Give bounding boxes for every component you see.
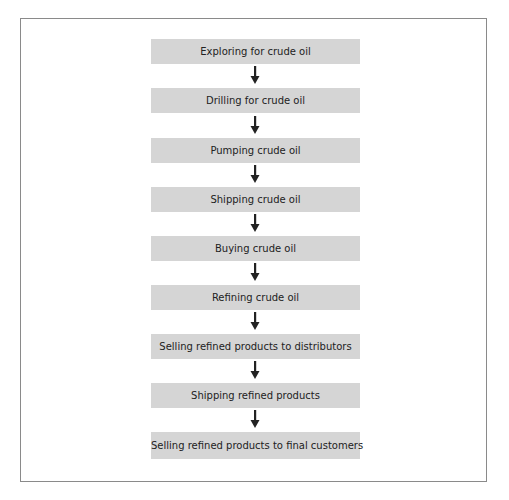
step-selling-final-customers: Selling refined products to final custom… [151,432,360,459]
step-refining: Refining crude oil [151,285,360,310]
arrow-down-icon [250,115,260,135]
arrow-down-icon [250,311,260,331]
step-shipping-refined: Shipping refined products [151,383,360,408]
step-shipping-crude: Shipping crude oil [151,187,360,212]
step-selling-distributors: Selling refined products to distributors [151,334,360,359]
step-exploring: Exploring for crude oil [151,39,360,64]
arrow-down-icon [250,213,260,233]
arrow-down-icon [250,164,260,184]
arrow-down-icon [250,360,260,380]
arrow-down-icon [250,65,260,85]
arrow-down-icon [250,262,260,282]
step-pumping: Pumping crude oil [151,138,360,163]
arrow-down-icon [250,409,260,429]
step-drilling: Drilling for crude oil [151,88,360,113]
step-buying: Buying crude oil [151,236,360,261]
